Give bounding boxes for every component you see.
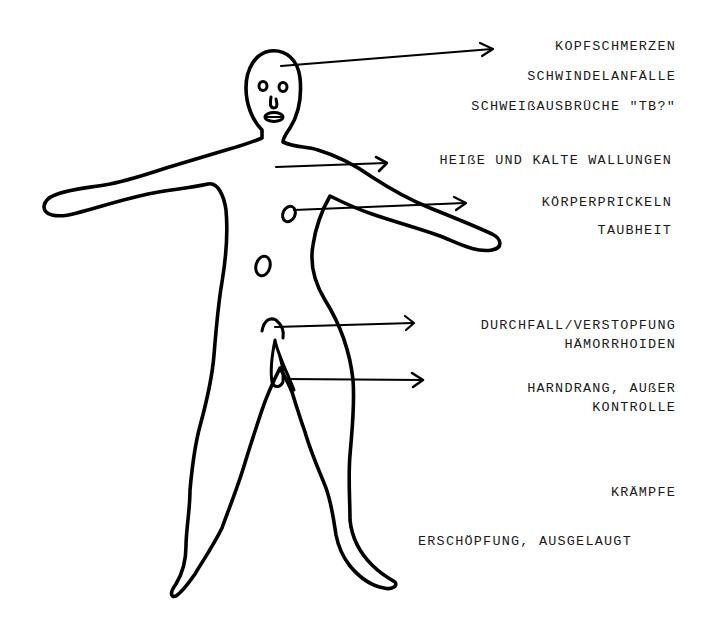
label-wallungen: HEIßE UND KALTE WALLUNGEN <box>439 152 672 169</box>
label-harndrang: HARNDRANG, AUßER <box>527 380 676 397</box>
label-haemorrhoiden: HÄMORRHOIDEN <box>564 336 676 353</box>
label-schweissausbrueche: SCHWEIßAUSBRÜCHE "TB?" <box>471 98 676 115</box>
label-durchfall: DURCHFALL/VERSTOPFUNG <box>481 317 676 334</box>
navel-circle <box>254 255 273 278</box>
label-kontrolle: KONTROLLE <box>592 399 676 416</box>
label-taubheit: TAUBHEIT <box>598 222 672 239</box>
chest-arrow <box>276 157 387 171</box>
head-outline <box>44 51 500 597</box>
left-eye <box>259 82 267 91</box>
label-kraempfe: KRÄMPFE <box>611 484 676 501</box>
head-arrow <box>281 43 493 66</box>
stomach-circle <box>280 204 298 224</box>
label-koerperprickeln: KÖRPERPRICKELN <box>542 194 672 211</box>
label-erschoepfung: ERSCHÖPFUNG, AUSGELAUGT <box>418 533 632 550</box>
nose <box>270 97 276 108</box>
label-kopfschmerzen: KOPFSCHMERZEN <box>555 38 676 55</box>
stomach-arrow <box>294 197 466 210</box>
bowel-arc <box>262 319 283 338</box>
label-schwindelanfaelle: SCHWINDELANFÄLLE <box>527 68 676 85</box>
right-eye <box>279 83 287 92</box>
symptom-body-diagram: KOPFSCHMERZEN SCHWINDELANFÄLLE SCHWEIßAU… <box>0 0 714 640</box>
bowel-arrow <box>275 316 414 330</box>
